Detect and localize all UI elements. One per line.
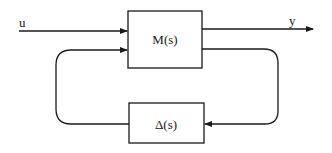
input-label: u: [19, 15, 26, 30]
output-signal-y: y: [202, 13, 313, 29]
output-label: y: [289, 13, 296, 28]
input-signal-u: u: [19, 15, 127, 31]
block-m: M(s): [128, 11, 202, 68]
feedback-path-left: [56, 50, 129, 124]
block-diagram: M(s) Δ(s) u y: [0, 0, 332, 153]
block-m-label: M(s): [152, 32, 177, 47]
block-delta-label: Δ(s): [155, 117, 177, 132]
block-delta: Δ(s): [129, 103, 204, 143]
feedback-path-right: [202, 49, 278, 124]
